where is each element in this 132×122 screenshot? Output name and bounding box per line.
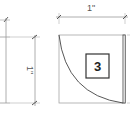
tag-number: 3 bbox=[94, 59, 101, 74]
detail-drawing: 1" 1" 3 bbox=[0, 0, 132, 122]
right-view: 1" 3 bbox=[56, 3, 130, 103]
door-leaf bbox=[123, 35, 125, 103]
left-dimension-label: 1" bbox=[25, 66, 35, 74]
left-view: 1" bbox=[0, 17, 40, 106]
top-dimension-label: 1" bbox=[87, 3, 95, 13]
